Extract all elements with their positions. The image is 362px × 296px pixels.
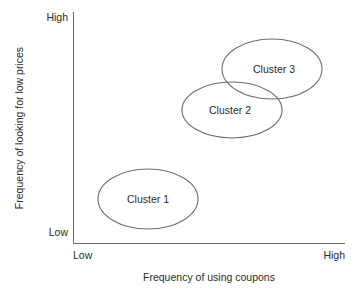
y-axis-high-tick-label: High [46, 11, 68, 23]
x-axis-high-tick-label: High [323, 249, 345, 261]
x-axis-title: Frequency of using coupons [143, 271, 275, 283]
cluster-3-label: Cluster 3 [253, 63, 295, 75]
plot-canvas: High Low Low High Frequency of looking f… [0, 0, 362, 296]
y-axis-low-tick-label: Low [49, 226, 69, 238]
cluster-scatter-diagram: High Low Low High Frequency of looking f… [0, 0, 362, 296]
x-axis-low-tick-label: Low [73, 249, 93, 261]
cluster-1-label: Cluster 1 [127, 193, 169, 205]
cluster-2-label: Cluster 2 [209, 104, 251, 116]
y-axis-title: Frequency of looking for low prices [13, 47, 25, 209]
